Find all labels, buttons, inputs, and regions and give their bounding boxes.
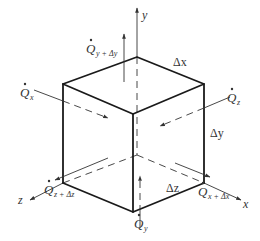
y-axis-label: y — [141, 8, 148, 22]
svg-text:Q: Q — [20, 85, 30, 100]
svg-text:y + Δy: y + Δy — [95, 49, 118, 58]
qx-arrow — [34, 90, 63, 101]
dy-label: Δy — [210, 126, 224, 140]
svg-text:Q: Q — [44, 182, 54, 197]
svg-text:z: z — [236, 98, 241, 107]
label-qx: Q x — [20, 83, 34, 102]
cube — [63, 57, 204, 212]
dz-label: Δz — [166, 181, 179, 195]
axes — [30, 8, 241, 200]
svg-text:x: x — [29, 93, 34, 102]
svg-text:y: y — [143, 224, 148, 233]
svg-text:x + Δx: x + Δx — [207, 192, 230, 201]
z-axis-label: z — [17, 193, 23, 207]
label-qx-dx: Q x + Δx — [198, 182, 230, 201]
label-qy-dy: Q y + Δy — [86, 39, 118, 58]
svg-text:Q: Q — [227, 90, 237, 105]
dx-label: Δx — [173, 55, 187, 69]
label-qz-dz: Q z + Δz — [44, 180, 75, 199]
svg-text:Q: Q — [134, 216, 144, 231]
svg-text:z + Δz: z + Δz — [53, 190, 75, 199]
svg-text:Q: Q — [86, 41, 96, 56]
svg-text:Q: Q — [198, 184, 208, 199]
label-qz: Q z — [227, 88, 241, 107]
label-qy: Q y — [134, 214, 148, 233]
x-axis-label: x — [242, 197, 249, 211]
control-volume-diagram: y z x Δx Δy Δz Q y + Δy Q x Q z Q z + Δz… — [0, 0, 260, 241]
